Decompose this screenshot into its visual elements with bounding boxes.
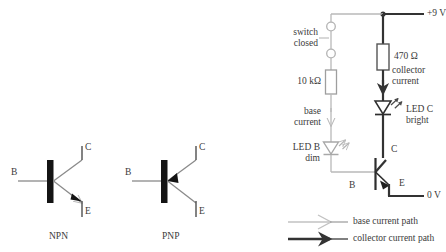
collector-current-label-line1: collector	[392, 65, 425, 76]
legend-collector-current-label: collector current path	[353, 233, 434, 244]
pnp-emitter-label: E	[199, 206, 205, 217]
switch-label-line1: switch	[283, 27, 318, 38]
collector-resistor-label: 470 Ω	[394, 51, 418, 62]
circuit-transistor-collector-label: C	[391, 144, 397, 155]
circuit-transistor-emitter-label: E	[399, 178, 405, 189]
led-b-symbol	[324, 126, 350, 172]
collector-current-label-line2: current	[392, 76, 419, 87]
led-c-label-line2: bright	[406, 115, 429, 126]
circuit-transistor-npn	[376, 158, 390, 196]
switch-label-line2: closed	[283, 38, 318, 49]
circuit-transistor-collector-lead	[376, 160, 387, 172]
base-current-label-line2: current	[282, 117, 321, 128]
led-b-label-line2: dim	[280, 153, 320, 164]
pnp-emitter-lead	[168, 181, 197, 203]
led-b-label-line1: LED B	[280, 142, 320, 153]
circuit-transistor-base-label: B	[349, 180, 355, 191]
collector-resistor-symbol	[377, 44, 389, 70]
led-c-label-line1: LED C	[406, 104, 433, 115]
pnp-symbol	[132, 146, 196, 217]
npn-collector-label: C	[85, 142, 91, 153]
pnp-base-bar	[161, 160, 168, 203]
base-current-label-line1: base	[282, 106, 321, 117]
led-c-triangle	[375, 101, 391, 114]
led-b-emission-arrow-2	[343, 143, 350, 149]
led-c-symbol	[375, 95, 402, 158]
supply-voltage-label: +9 V	[427, 8, 446, 19]
npn-emitter-arrow-icon	[71, 194, 83, 202]
ground-voltage-label: 0 V	[427, 190, 441, 201]
led-b-triangle	[324, 142, 339, 154]
pnp-title: PNP	[162, 231, 179, 242]
npn-symbol	[18, 146, 82, 217]
pnp-base-label: B	[125, 167, 131, 178]
npn-title: NPN	[49, 231, 68, 242]
npn-base-bar	[47, 160, 54, 203]
switch-bottom-contact-icon	[327, 49, 336, 58]
base-resistor-symbol	[326, 70, 337, 94]
pnp-collector-label: C	[199, 142, 205, 153]
switch-top-contact-icon	[327, 22, 336, 31]
npn-emitter-label: E	[85, 206, 91, 217]
led-b-emission-arrow-1	[339, 140, 346, 146]
npn-base-label: B	[11, 167, 17, 178]
legend-base-current-label: base current path	[353, 216, 418, 227]
npn-collector-lead	[54, 160, 83, 181]
switch-closed[interactable]	[327, 22, 336, 58]
base-resistor-label: 10 kΩ	[283, 76, 321, 87]
